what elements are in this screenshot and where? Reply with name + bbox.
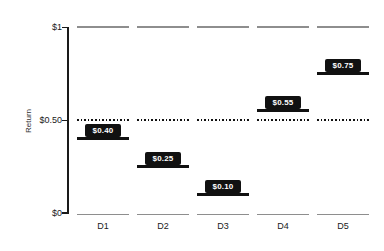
baseline-segment bbox=[317, 214, 369, 216]
bar-line bbox=[257, 109, 309, 112]
reference-dotted-segment bbox=[317, 119, 369, 121]
reference-dotted-segment bbox=[137, 119, 189, 121]
x-axis-label-d1: D1 bbox=[73, 221, 133, 231]
bar-line bbox=[77, 137, 129, 140]
bar-value-label: $0.25 bbox=[145, 152, 181, 165]
y-tick-label-1-dollar: $1 bbox=[26, 22, 62, 32]
bar-line bbox=[197, 193, 249, 196]
bar-value-label: $0.10 bbox=[205, 180, 241, 193]
y-tick-mark-0 bbox=[62, 212, 68, 214]
topline-segment bbox=[197, 26, 249, 28]
baseline-segment bbox=[257, 214, 309, 216]
return-chart: Return $1 $0.50 $0 $0.40D1$0.25D2$0.10D3… bbox=[0, 0, 384, 251]
reference-dotted-segment bbox=[77, 119, 129, 121]
y-tick-mark-050 bbox=[62, 120, 68, 122]
reference-dotted-segment bbox=[257, 119, 309, 121]
x-axis-label-d3: D3 bbox=[193, 221, 253, 231]
bar-value-label: $0.40 bbox=[85, 124, 121, 137]
bar-value-label: $0.55 bbox=[265, 96, 301, 109]
plot-area: $0.40D1$0.25D2$0.10D3$0.55D4$0.75D5 bbox=[73, 27, 373, 214]
baseline-segment bbox=[77, 214, 129, 216]
bar-value-label: $0.75 bbox=[325, 59, 361, 72]
topline-segment bbox=[257, 26, 309, 28]
x-axis-label-d4: D4 bbox=[253, 221, 313, 231]
bar-line bbox=[137, 165, 189, 168]
x-axis-label-d5: D5 bbox=[313, 221, 373, 231]
reference-dotted-segment bbox=[197, 119, 249, 121]
y-tick-mark-1-dollar bbox=[62, 27, 68, 29]
topline-segment bbox=[137, 26, 189, 28]
x-axis-label-d2: D2 bbox=[133, 221, 193, 231]
topline-segment bbox=[317, 26, 369, 28]
bar-line bbox=[317, 72, 369, 75]
y-tick-label-0: $0 bbox=[26, 208, 62, 218]
topline-segment bbox=[77, 26, 129, 28]
baseline-segment bbox=[137, 214, 189, 216]
baseline-segment bbox=[197, 214, 249, 216]
y-tick-label-050: $0.50 bbox=[26, 115, 62, 125]
